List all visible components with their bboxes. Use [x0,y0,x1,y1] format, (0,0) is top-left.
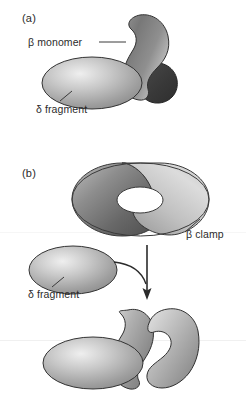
delta-fragment-ellipse-bottom [43,337,143,389]
panel-label-b: (b) [22,167,36,179]
callout-beta-clamp: β clamp [186,228,224,240]
panel-b-illustration [29,163,209,389]
callout-delta-fragment-a: δ fragment [36,103,87,115]
scan-line-artifacts [0,233,246,341]
beta-clamp-open-right-lobe [147,309,199,388]
torus-hole [117,187,163,213]
panel-a-illustration [42,15,177,109]
callout-delta-fragment-b: δ fragment [28,288,79,300]
delta-fragment-ellipse-b [29,246,117,294]
reaction-down-arrow [143,245,152,300]
callout-beta-monomer: β monomer [28,36,82,48]
delta-fragment-ellipse-a [42,57,142,109]
beta-clamp-closed-torus [72,163,209,236]
reaction-curve-connector [114,262,146,284]
figure-canvas [0,0,246,411]
panel-label-a: (a) [22,12,36,24]
